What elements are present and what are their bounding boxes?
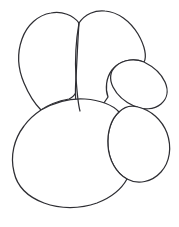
drawing-canvas	[0, 0, 179, 227]
line-art-illustration	[0, 0, 179, 227]
